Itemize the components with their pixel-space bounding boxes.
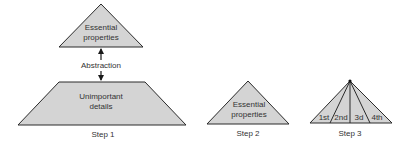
step3-segment-4th: 4th	[371, 113, 382, 122]
step1-top-label-line1: Essential	[85, 23, 118, 32]
step1-bottom-label-line1: Unimportant	[79, 92, 123, 101]
step3-segment-3d: 3d	[355, 113, 364, 122]
step1-caption: Step 1	[91, 130, 115, 139]
abstraction-label: Abstraction	[81, 61, 121, 70]
step3-segment-2nd: 2nd	[334, 113, 347, 122]
abstraction-arrow-down-icon	[98, 71, 104, 81]
step2-label-line2: properties	[231, 110, 267, 119]
step2-caption: Step 2	[236, 129, 260, 138]
step3-caption: Step 3	[338, 129, 362, 138]
step2-label-line1: Essential	[233, 100, 266, 109]
step3-apex-point-icon	[348, 79, 351, 82]
step1-bottom-label-line2: details	[89, 102, 112, 111]
step1-top-label-line2: properties	[83, 33, 119, 42]
abstraction-diagram: Essential properties Abstraction Unimpor…	[0, 0, 407, 143]
step3-segment-1st: 1st	[319, 113, 330, 122]
abstraction-arrow-up-icon	[98, 48, 104, 60]
